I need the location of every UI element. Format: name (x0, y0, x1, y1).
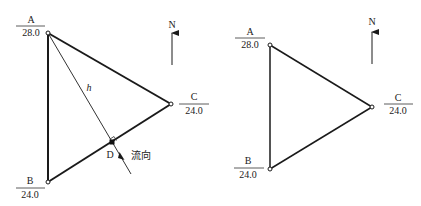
point-b-name: B (27, 175, 34, 186)
point-c-marker (169, 102, 173, 106)
point-a-marker (46, 31, 50, 35)
edge-ac (48, 33, 171, 104)
point-a-name: A (246, 26, 254, 37)
point-b-value: 24.0 (239, 169, 257, 180)
point-b-marker (268, 167, 272, 171)
point-c-name: C (191, 91, 198, 102)
height-label: h (87, 82, 92, 93)
north-label: N (368, 16, 375, 27)
point-d-name: D (106, 149, 113, 160)
point-d-marker (110, 140, 115, 145)
point-c-marker (370, 105, 374, 109)
point-b-name: B (245, 155, 252, 166)
point-b-value: 24.0 (21, 189, 39, 200)
point-a-name: A (27, 14, 35, 25)
flow-direction-label: 流向 (131, 149, 151, 161)
flow-line (48, 33, 131, 174)
point-a-value: 28.0 (241, 39, 259, 50)
north-label: N (168, 19, 175, 30)
edge-ac (270, 45, 372, 107)
point-c-value: 24.0 (185, 105, 203, 116)
point-a-value: 28.0 (22, 27, 40, 38)
point-b-marker (46, 180, 50, 184)
point-c-name: C (395, 92, 402, 103)
left-diagram: A 28.0 B 24.0 C 24.0 D h 流向 N (16, 14, 209, 200)
right-diagram: A 28.0 B 24.0 C 24.0 N (234, 16, 413, 180)
point-c-value: 24.0 (389, 105, 407, 116)
diagram-canvas: A 28.0 B 24.0 C 24.0 D h 流向 N A 28.0 B (0, 0, 421, 206)
edge-bc (270, 107, 372, 169)
point-a-marker (268, 43, 272, 47)
